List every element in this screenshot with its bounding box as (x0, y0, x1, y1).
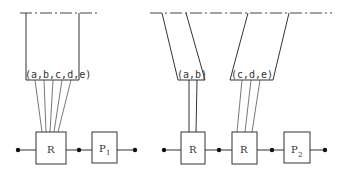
set-label-right: (c,d,e) (231, 69, 273, 80)
set-label-left: (a,b) (177, 69, 207, 80)
node-dot (16, 148, 20, 152)
node-dot (77, 148, 81, 152)
node-dot (133, 148, 137, 152)
router-label-1: R (189, 144, 197, 155)
node-dot (323, 148, 327, 152)
set-label: (a,b,c,d,e) (25, 69, 91, 80)
channel-lines-right (237, 80, 260, 132)
node-dot (217, 148, 221, 152)
node-dot (162, 148, 166, 152)
router-label-2: R (240, 144, 248, 155)
left-diagram: (a,b,c,d,e) R P 1 (16, 13, 137, 164)
process-label: P (291, 144, 298, 155)
diagram-canvas: (a,b,c,d,e) R P 1 (a,b) (c,d,e) (0, 0, 347, 174)
process-subscript: 1 (106, 149, 110, 157)
node-dot (270, 148, 274, 152)
process-subscript: 2 (298, 151, 302, 159)
channel-lines (35, 80, 71, 132)
right-diagram: (a,b) (c,d,e) R R P 2 (150, 13, 332, 164)
router-label: R (47, 144, 55, 155)
channel-lines-left (189, 80, 197, 132)
process-label: P (99, 143, 106, 154)
